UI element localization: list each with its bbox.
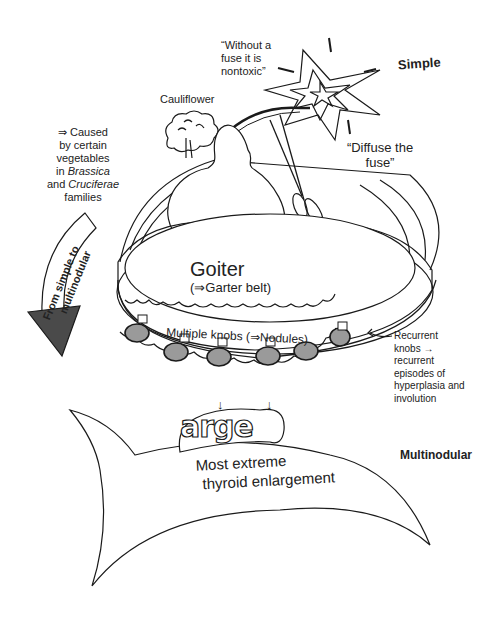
note-line: in Brassica [38,165,128,178]
note-line: families [38,191,128,204]
nodule [330,328,350,346]
cauliflower-icon [166,111,218,158]
quote-nontoxic: “Without a fuse it is nontoxic” [221,39,271,78]
note-italic: Cruciferae [68,178,119,190]
label-simple: Simple [398,55,442,73]
label-multinodular: Multinodular [400,448,472,463]
note-line: Recurrent [394,330,465,343]
caused-by-note: ⇒ Caused by certain vegetables in Brassi… [38,126,128,204]
note-line: ⇒ Caused [38,126,128,139]
quote-line: “Diffuse the [340,140,420,155]
note-line: vegetables [38,152,128,165]
note-italic: Brassica [68,165,110,177]
note-line: by certain [38,139,128,152]
label-large-bubble: arge [180,410,253,444]
nodule [164,343,188,361]
nodule [207,348,231,366]
quote-line: fuse it is [221,52,271,65]
note-line: hyperplasia and [394,380,465,393]
nodule [256,347,280,365]
note-line: and Cruciferae [38,178,128,191]
quote-line: “Without a [221,39,271,52]
down-arrow-2: ↓ [266,397,273,412]
label-cauliflower: Cauliflower [160,93,214,106]
label-goiter: Goiter [190,258,244,280]
note-text: in [56,165,68,177]
recurrent-note: Recurrent knobs → recurrent episodes of … [394,330,465,405]
nodule [125,324,149,342]
quote-line: nontoxic” [221,65,271,78]
goiter-diagram [0,0,503,618]
note-line: recurrent [394,355,465,368]
note-line: knobs → [394,343,465,356]
quote-line: fuse” [340,155,420,170]
extreme-caption: Most extreme thyroid enlargement [195,448,335,493]
note-line: episodes of [394,368,465,381]
note-line: involution [394,393,465,406]
label-garter: (⇒Garter belt) [190,280,271,295]
note-text: and [47,178,68,190]
quote-diffuse: “Diffuse the fuse” [340,140,420,170]
